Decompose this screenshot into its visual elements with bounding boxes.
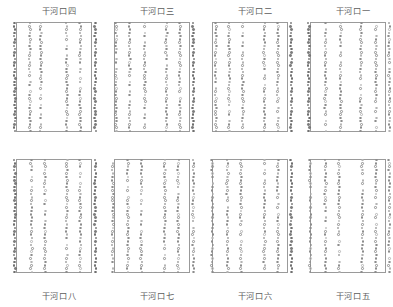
plot-box[interactable] [310,159,386,273]
scatter-markers [209,155,293,277]
data-point [192,28,195,31]
data-point [211,196,214,199]
data-point [163,267,166,270]
data-point [324,254,327,257]
data-point [263,203,266,206]
data-point [263,110,266,113]
data-point [229,68,232,71]
data-point [325,68,328,71]
data-point [141,165,144,168]
data-point [324,123,327,126]
data-point [13,244,16,247]
data-point [388,189,391,192]
data-point [308,87,311,90]
data-point [375,77,378,80]
data-point [13,84,16,87]
data-point [192,196,195,199]
data-point [30,244,33,247]
scatter-markers [307,155,391,277]
panel-ganhekou-si[interactable]: 干河口四 [14,4,104,149]
data-point [112,267,115,270]
data-point [308,45,311,48]
data-point [78,104,81,107]
data-point [307,51,310,54]
data-point [277,107,280,110]
data-point [388,38,391,41]
data-point [177,206,180,209]
panel-ganhekou-ba[interactable]: 干河口八 [14,153,104,303]
data-point [339,45,342,48]
panel-ganhekou-liu[interactable]: 干河口六 [210,153,300,303]
data-point [13,64,16,67]
data-point [126,264,129,267]
panel-ganhekou-wu[interactable]: 干河口五 [308,153,393,303]
panel-ganhekou-yi[interactable]: 干河口一 [308,4,393,149]
data-point [388,100,391,103]
data-point [210,169,213,172]
data-point [165,77,168,80]
plot-box[interactable] [212,22,288,132]
data-point [192,113,195,116]
data-point [263,172,266,175]
data-point [115,77,118,80]
data-point [80,233,83,236]
data-point [263,38,266,41]
data-point [29,41,32,44]
data-point [277,244,280,247]
data-point [94,206,97,209]
data-point [13,45,16,48]
panel-ganhekou-san[interactable]: 干河口三 [112,4,202,149]
data-point [192,240,195,243]
data-point [111,254,114,257]
data-point [276,206,279,209]
plot-box[interactable] [114,159,190,273]
data-point [263,213,266,216]
data-point [375,107,378,110]
data-point [79,176,82,179]
data-point [241,25,244,28]
data-point [66,233,69,236]
data-point [388,165,391,168]
data-point [193,237,196,240]
data-point [240,169,243,172]
data-point [375,257,378,260]
data-point [375,74,378,77]
plot-box[interactable] [212,159,288,273]
data-point [40,123,43,126]
data-point [308,179,311,182]
data-point [111,230,114,233]
data-point [262,261,265,264]
data-point [387,264,390,267]
plot-box[interactable] [16,22,92,132]
panel-ganhekou-er[interactable]: 干河口二 [210,4,300,149]
data-point [79,165,82,168]
data-point [114,22,117,25]
data-point [242,51,245,54]
data-point [359,77,362,80]
data-point [14,100,17,103]
data-point [291,182,294,185]
data-point [227,247,230,250]
data-point [276,271,279,274]
data-point [126,199,129,202]
data-point [228,123,231,126]
data-point [111,169,114,172]
data-point [94,45,97,48]
data-point [360,54,363,57]
data-point [374,51,377,54]
plot-box[interactable] [310,22,386,132]
data-point [14,267,17,270]
panel-ganhekou-qi[interactable]: 干河口七 [112,153,202,303]
plot-box[interactable] [114,22,190,132]
data-point [66,87,69,90]
data-point [94,264,97,267]
data-point [115,100,118,103]
scatter-markers [209,18,293,136]
data-point [277,45,280,48]
data-point [79,90,82,93]
data-point [338,216,341,219]
data-point [144,104,147,107]
data-point [226,220,229,223]
data-point [129,130,132,133]
plot-box[interactable] [16,159,92,273]
